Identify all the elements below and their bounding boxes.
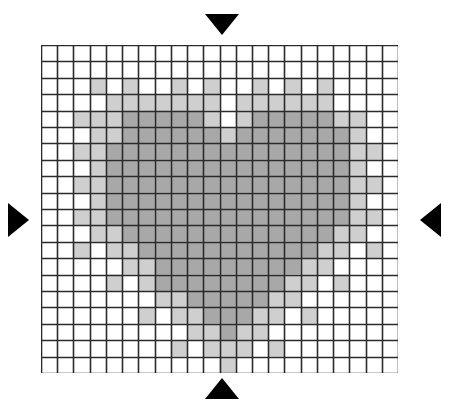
top-marker-triangle-down-icon — [205, 14, 239, 35]
bottom-marker-triangle-up-icon — [205, 378, 239, 399]
pixel-grid — [41, 45, 398, 373]
left-marker-triangle-right-icon — [8, 203, 29, 237]
faint-header-text — [252, 0, 442, 10]
pixel-grid-figure — [0, 0, 449, 407]
right-marker-triangle-left-icon — [420, 203, 441, 237]
pixel-grid-canvas — [41, 45, 398, 373]
